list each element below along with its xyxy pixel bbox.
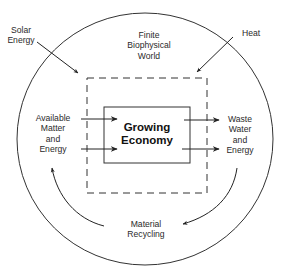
world-label: Finite Biophysical World (112, 30, 186, 61)
heat-label: Heat (236, 28, 266, 38)
solar-energy-label: Solar Energy (4, 25, 38, 46)
recycling-arc-right (183, 168, 237, 224)
economy-label: Growing Economy (104, 121, 190, 147)
heat-arrow (197, 37, 233, 72)
waste-label: Waste Water and Energy (220, 114, 260, 156)
available-matter-label: Available Matter and Energy (30, 113, 76, 155)
recycling-label: Material Recycling (118, 219, 174, 240)
recycling-arc-left (52, 168, 104, 226)
